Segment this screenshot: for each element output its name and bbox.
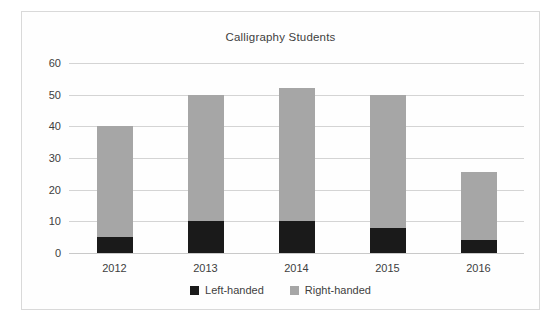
legend-item-right-handed[interactable]: Right-handed [290,284,371,296]
y-axis-tick-label: 30 [49,152,61,164]
bar-stack[interactable] [461,172,497,253]
bar-segment-right-handed[interactable] [370,95,406,228]
gridline-60 [69,63,524,64]
y-axis-tick-label: 0 [55,247,61,259]
x-axis-tick-label: 2015 [370,262,406,274]
bar-segment-right-handed[interactable] [279,88,315,221]
legend-swatch-left-handed [190,286,199,295]
bar-segment-right-handed[interactable] [461,172,497,240]
bar-segment-right-handed[interactable] [188,95,224,222]
y-axis-tick-label: 50 [49,89,61,101]
legend-item-left-handed[interactable]: Left-handed [190,284,264,296]
legend-swatch-right-handed [290,286,299,295]
bar-stack[interactable] [188,95,224,253]
bar-segment-left-handed[interactable] [188,221,224,253]
bar-segment-left-handed[interactable] [370,228,406,253]
bar-segment-right-handed[interactable] [97,126,133,237]
chart-legend: Left-handed Right-handed [22,284,539,296]
legend-label-left-handed: Left-handed [205,284,264,296]
y-axis-tick-label: 10 [49,215,61,227]
bar-segment-left-handed[interactable] [97,237,133,253]
y-axis-tick-label: 20 [49,184,61,196]
y-axis-tick-label: 60 [49,57,61,69]
bar-stack[interactable] [279,88,315,253]
legend-label-right-handed: Right-handed [305,284,371,296]
bar-segment-left-handed[interactable] [279,221,315,253]
bar-segment-left-handed[interactable] [461,240,497,253]
y-axis-tick-label: 40 [49,120,61,132]
plot-area: 010203040506020122013201420152016 [69,63,524,253]
gridline-0 [69,253,524,254]
chart-title: Calligraphy Students [22,31,539,43]
x-axis-tick-label: 2012 [97,262,133,274]
chart-container: Calligraphy Students 0102030405060201220… [21,11,540,310]
x-axis-tick-label: 2014 [279,262,315,274]
x-axis-tick-label: 2013 [188,262,224,274]
bar-stack[interactable] [370,95,406,253]
x-axis-tick-label: 2016 [461,262,497,274]
bar-stack[interactable] [97,126,133,253]
